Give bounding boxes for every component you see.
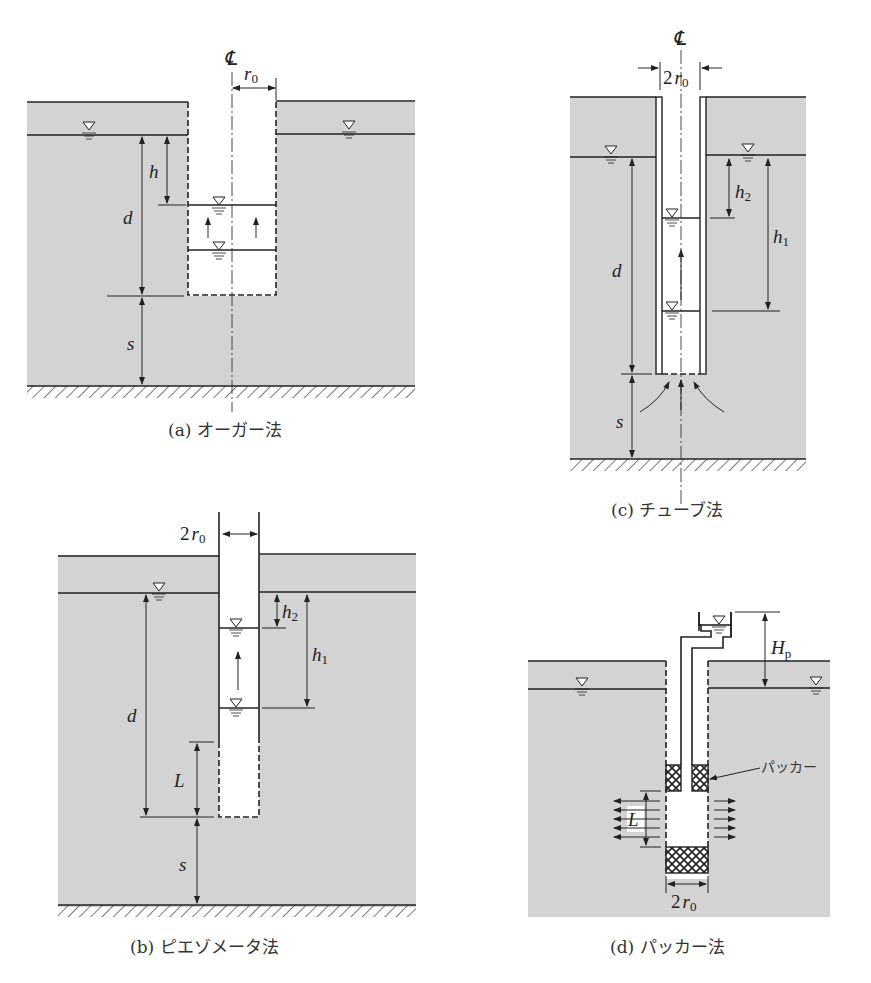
s-label: s — [127, 333, 134, 354]
h-label: h — [149, 161, 159, 182]
impermeable-base — [570, 459, 806, 471]
centerline-symbol: ℄ — [224, 47, 238, 69]
tube-wall-left — [656, 97, 662, 374]
packer-upper-left — [666, 765, 681, 791]
caption-d: (d) パッカー法 — [610, 937, 725, 957]
centerline-symbol: ℄ — [673, 27, 687, 49]
d-label: d — [123, 207, 133, 228]
panel-c-tube-method: ℄ 2r0 h2 h1 d s (c) チューブ法 — [570, 27, 806, 520]
packer-label: パッカー — [761, 759, 817, 775]
impermeable-base — [27, 386, 415, 398]
d-label: d — [612, 260, 622, 281]
panel-b-piezometer-method: 2r0 h2 h1 L d s (b) ピエゾメータ法 — [58, 512, 416, 957]
diameter-label: 2r0 — [663, 67, 688, 90]
s-label: s — [179, 854, 186, 875]
panel-d-packer-method: Hp パッカー L 2r0 (d) パッカー法 — [528, 612, 830, 957]
packer-upper-right — [692, 765, 708, 791]
d-label: d — [127, 705, 137, 726]
panel-a-auger-method: ℄ r0 h d s (a) オーガー法 — [27, 47, 415, 440]
diameter-label: 2r0 — [180, 523, 205, 546]
piezometer-pipe — [219, 512, 259, 818]
tube-wall-right — [700, 97, 706, 374]
caption-a: (a) オーガー法 — [168, 420, 282, 440]
caption-c: (c) チューブ法 — [611, 500, 723, 520]
s-label: s — [616, 411, 623, 432]
impermeable-base — [58, 905, 416, 917]
packer-lower — [666, 847, 708, 873]
caption-b: (b) ピエゾメータ法 — [130, 937, 279, 957]
Hp-label: Hp — [770, 637, 791, 661]
L-label: L — [173, 770, 185, 791]
radius-label: r0 — [244, 63, 258, 86]
permeability-test-diagram: ℄ r0 h d s (a) オーガー法 2r0 h2 — [0, 0, 871, 983]
